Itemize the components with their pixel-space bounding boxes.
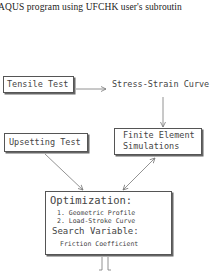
optimization-title: Optimization: — [50, 194, 132, 206]
finite-element-label-line1: Finite Element — [123, 130, 195, 140]
finite-element-label-line2: Simulations — [123, 141, 179, 151]
tensile-test-box: Tensile Test — [3, 76, 74, 93]
arrow-fem-optimization-bidirectional — [123, 158, 155, 190]
optimization-item-geometric-profile: 1. Geometric Profile — [57, 209, 135, 217]
upsetting-test-label: Upsetting Test — [9, 137, 81, 147]
upsetting-test-box: Upsetting Test — [4, 133, 88, 152]
finite-element-box: Finite Element Simulations — [114, 128, 202, 155]
hollow-arrow-down — [99, 257, 111, 270]
optimization-item-load-stroke-curve: 2. Load-Stroke Curve — [57, 217, 135, 225]
search-variable-label: Search Variable: — [52, 226, 139, 236]
tensile-test-label: Tensile Test — [7, 79, 68, 89]
arrow-upsetting-to-optimization — [45, 154, 83, 190]
optimization-box: Optimization: 1. Geometric Profile 2. Lo… — [45, 191, 172, 255]
caption-text: AQUS program using UFCHK user's subrouti… — [0, 2, 182, 12]
search-variable-value: Friction Coefficient — [60, 240, 138, 248]
stress-strain-curve-label: Stress-Strain Curve — [112, 79, 209, 89]
